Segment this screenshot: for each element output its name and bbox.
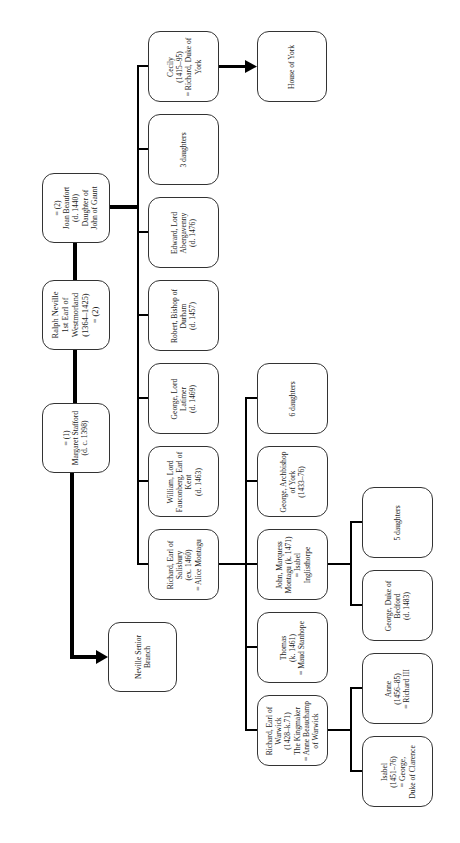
node-cecily: Cecily (1415–95) = Richard, Duke of York bbox=[148, 31, 219, 102]
node-anne: Anne (1456–85) = Richard III bbox=[362, 653, 433, 724]
node-6-daughters: 6 daughters bbox=[257, 363, 328, 434]
node-label: William, Lord Fauconberg, Earl of Kent (… bbox=[165, 448, 202, 516]
node-robert-durham: Robert, Bishop of Durham (d. 1457) bbox=[148, 280, 219, 351]
node-label: George, Archbishop of York (1433–76) bbox=[279, 448, 307, 516]
node-label: House of York bbox=[287, 33, 296, 101]
node-george-archbishop: George, Archbishop of York (1433–76) bbox=[257, 446, 328, 517]
node-label: John, Marquess Montagu (k. 1471) = Isabe… bbox=[274, 531, 311, 599]
node-label: Richard, Earl of Salisbury (ex. 1460) = … bbox=[165, 531, 202, 599]
node-edward-abergavenny: Edward, Lord Abergavenny (d. 1476) bbox=[148, 197, 219, 268]
node-label: Anne (1456–85) = Richard III bbox=[384, 655, 412, 723]
node-label: Ralph Neville 1st Earl of Westmorland (1… bbox=[51, 281, 101, 349]
node-label: Thomas (k. 1461) = Maud Stanhope bbox=[279, 614, 307, 682]
node-ralph-neville: Ralph Neville 1st Earl of Westmorland (1… bbox=[42, 280, 110, 350]
node-george-bedford: George, Duke of Bedford (d. 1483) bbox=[362, 570, 433, 641]
node-richard-warwick: Richard, Earl of Warwick (1428–k.71) The… bbox=[257, 695, 328, 766]
node-3-daughters: 3 daughters bbox=[148, 114, 219, 185]
node-label: George, Duke of Bedford (d. 1483) bbox=[384, 572, 412, 640]
node-label: George, Lord Latimer (d. 1469) bbox=[170, 365, 198, 433]
node-label: Cecily (1415–95) = Richard, Duke of York bbox=[165, 33, 202, 101]
node-isabel: Isabel (1451–76) = George, Duke of Clare… bbox=[362, 736, 433, 807]
node-john-marquess: John, Marquess Montagu (k. 1471) = Isabe… bbox=[257, 529, 328, 600]
arrow-to-senior-branch bbox=[96, 650, 108, 664]
node-label: Robert, Bishop of Durham (d. 1457) bbox=[170, 282, 198, 350]
node-label: 5 daughters bbox=[393, 489, 402, 557]
node-label: 6 daughters bbox=[288, 365, 297, 433]
node-thomas: Thomas (k. 1461) = Maud Stanhope bbox=[257, 612, 328, 683]
node-label: Edward, Lord Abergavenny (d. 1476) bbox=[170, 199, 198, 267]
node-label: Richard, Earl of Warwick (1428–k.71) The… bbox=[265, 697, 320, 765]
node-label: Neville Senior Branch bbox=[133, 623, 151, 691]
node-house-of-york: House of York bbox=[257, 31, 327, 102]
node-richard-salisbury: Richard, Earl of Salisbury (ex. 1460) = … bbox=[148, 529, 219, 600]
node-5-daughters: 5 daughters bbox=[362, 487, 433, 558]
node-william-fauconberg: William, Lord Fauconberg, Earl of Kent (… bbox=[148, 446, 219, 517]
arrow-to-house-of-york bbox=[245, 60, 257, 73]
node-joan-beaufort: = (2) Joan Beaufort (d. 1440) Daughter o… bbox=[42, 173, 110, 243]
node-label: 3 daughters bbox=[179, 116, 188, 184]
node-label: Isabel (1451–76) = George, Duke of Clare… bbox=[379, 738, 416, 806]
node-margaret-stafford: = (1) Margaret Stafford (d. c. 1398) bbox=[42, 403, 110, 473]
node-george-latimer: George, Lord Latimer (d. 1469) bbox=[148, 363, 219, 434]
node-neville-senior-branch: Neville Senior Branch bbox=[108, 622, 177, 692]
node-label: = (1) Margaret Stafford (d. c. 1398) bbox=[62, 404, 90, 472]
node-label: = (2) Joan Beaufort (d. 1440) Daughter o… bbox=[53, 174, 99, 242]
